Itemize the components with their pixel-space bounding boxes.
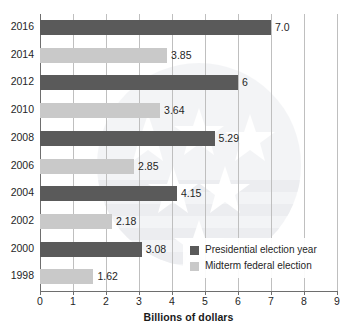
bar-value-label-2016: 7.0 xyxy=(275,19,290,35)
legend-label: Midterm federal election xyxy=(205,260,312,272)
y-axis-tick-label: 2006 xyxy=(11,157,34,174)
gridline-9 xyxy=(337,14,338,291)
bar-1998 xyxy=(40,269,93,284)
bar-2016 xyxy=(40,20,271,35)
bar-2002 xyxy=(40,214,112,229)
x-axis-tick-label: 8 xyxy=(301,295,307,308)
bar-row: 20044.15 xyxy=(40,180,337,208)
bar-row: 20022.18 xyxy=(40,208,337,236)
bar-2000 xyxy=(40,242,142,257)
bar-value-label-2004: 4.15 xyxy=(181,185,201,201)
bar-value-label-2010: 3.64 xyxy=(164,102,184,118)
x-axis: 0123456789 xyxy=(40,291,337,307)
y-axis-tick-label: 2002 xyxy=(11,212,34,229)
legend-swatch-icon xyxy=(190,262,199,271)
bar-2004 xyxy=(40,186,177,201)
bar-chart: 20167.020143.852012620103.6420085.292006… xyxy=(0,0,347,329)
bar-row: 20103.64 xyxy=(40,97,337,125)
y-axis-tick-label: 1998 xyxy=(11,267,34,284)
bar-row: 20085.29 xyxy=(40,125,337,153)
bar-value-label-2012: 6 xyxy=(242,74,248,90)
y-axis-tick-label: 2012 xyxy=(11,73,34,90)
x-axis-tick-label: 4 xyxy=(169,295,175,308)
legend-item: Midterm federal election xyxy=(190,259,329,273)
x-axis-rule xyxy=(40,291,337,292)
y-axis-tick-label: 2008 xyxy=(11,129,34,146)
bar-value-label-2006: 2.85 xyxy=(138,158,158,174)
bar-2012 xyxy=(40,75,238,90)
x-axis-tick-label: 5 xyxy=(202,295,208,308)
bar-value-label-2000: 3.08 xyxy=(146,241,166,257)
x-axis-tick-label: 6 xyxy=(235,295,241,308)
bar-2006 xyxy=(40,159,134,174)
bar-value-label-2002: 2.18 xyxy=(116,213,136,229)
x-axis-tick-label: 1 xyxy=(70,295,76,308)
bar-row: 20167.0 xyxy=(40,14,337,42)
y-axis-tick-label: 2016 xyxy=(11,18,34,35)
bar-2008 xyxy=(40,131,215,146)
bar-value-label-2014: 3.85 xyxy=(171,47,191,63)
y-axis-tick-label: 2004 xyxy=(11,184,34,201)
x-axis-title: Billions of dollars xyxy=(0,311,347,323)
y-axis-tick-label: 2000 xyxy=(11,240,34,257)
y-axis-tick-label: 2010 xyxy=(11,101,34,118)
x-axis-tick-label: 3 xyxy=(136,295,142,308)
bar-row: 20126 xyxy=(40,69,337,97)
chart-legend: Presidential election yearMidterm federa… xyxy=(183,238,335,278)
legend-swatch-icon xyxy=(190,246,199,255)
bar-value-label-2008: 5.29 xyxy=(219,130,239,146)
legend-item: Presidential election year xyxy=(190,243,329,257)
x-axis-title-text: Billions of dollars xyxy=(144,311,234,323)
y-axis-tick-label: 2014 xyxy=(11,46,34,63)
bar-value-label-1998: 1.62 xyxy=(97,268,117,284)
x-axis-tick-label: 2 xyxy=(103,295,109,308)
bar-row: 20143.85 xyxy=(40,42,337,70)
bar-row: 20062.85 xyxy=(40,153,337,181)
legend-label: Presidential election year xyxy=(205,244,317,256)
bar-2010 xyxy=(40,103,160,118)
x-axis-tick-label: 7 xyxy=(268,295,274,308)
x-axis-tick-label: 0 xyxy=(37,295,43,308)
bar-2014 xyxy=(40,48,167,63)
x-axis-tick-label: 9 xyxy=(334,295,340,308)
